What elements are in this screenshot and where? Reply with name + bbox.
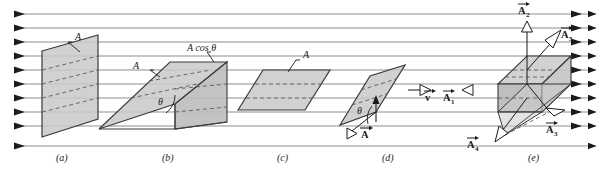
panel-a-letter: (a) (56, 152, 68, 164)
panel-b-area-label: A (132, 60, 140, 71)
panel-e-area-vector-3-label: A (546, 124, 554, 135)
flux-figure: A (a) θ A (0, 0, 607, 172)
panel-e-area-vector-3-subscript: 3 (554, 130, 558, 138)
field-line-right-arrowheads (571, 11, 582, 130)
panel-d-area-vector-1-subscript: 1 (451, 98, 455, 106)
a1-vector-arrowhead-d (462, 85, 473, 96)
surface-d (340, 65, 405, 125)
panel-b-angle-label: θ (158, 96, 163, 107)
a5-vector-arrowhead-e (545, 30, 561, 48)
panel-c-area-label: A (302, 49, 310, 60)
panel-b-letter: (b) (162, 152, 174, 164)
a-vector-arrowhead-d (347, 128, 357, 139)
panel-c-letter: (c) (277, 152, 289, 164)
surface-c (238, 70, 330, 110)
panel-e-area-vector-2-subscript: 2 (526, 11, 530, 19)
panel-e: A 2 A 5 A 3 A 4 (e) (467, 2, 573, 164)
panel-e-letter: (e) (528, 152, 540, 164)
panel-e-area-vector-5-subscript: 5 (569, 35, 573, 43)
panel-a-area-label: A (74, 31, 82, 42)
panel-d-area-vector-label: A (361, 129, 369, 140)
panel-e-area-vector-4-subscript: 4 (475, 145, 479, 153)
panel-c: A (c) (238, 49, 330, 164)
field-line-left-arrowheads (14, 11, 25, 150)
panel-d-area-vector-1-label: A (443, 92, 451, 103)
panel-d-letter: (d) (382, 152, 394, 164)
panel-b-projected-area-label: A cos θ (186, 42, 216, 53)
panel-a: A (a) (42, 31, 98, 164)
panel-d-angle-label: θ (357, 105, 362, 116)
figure-canvas: A (a) θ A (0, 0, 607, 172)
panel-e-area-vector-4-label: A (467, 139, 475, 150)
panel-e-area-vector-5-label: A (561, 29, 569, 40)
panel-d: A θ v A 1 (d) (340, 65, 473, 164)
a2-vector-arrowhead-e (522, 21, 533, 32)
label-leader-b-Acos (207, 52, 214, 62)
panel-d-velocity-vector-label: v (425, 92, 431, 103)
panel-e-area-vector-2-label: A (518, 5, 526, 16)
